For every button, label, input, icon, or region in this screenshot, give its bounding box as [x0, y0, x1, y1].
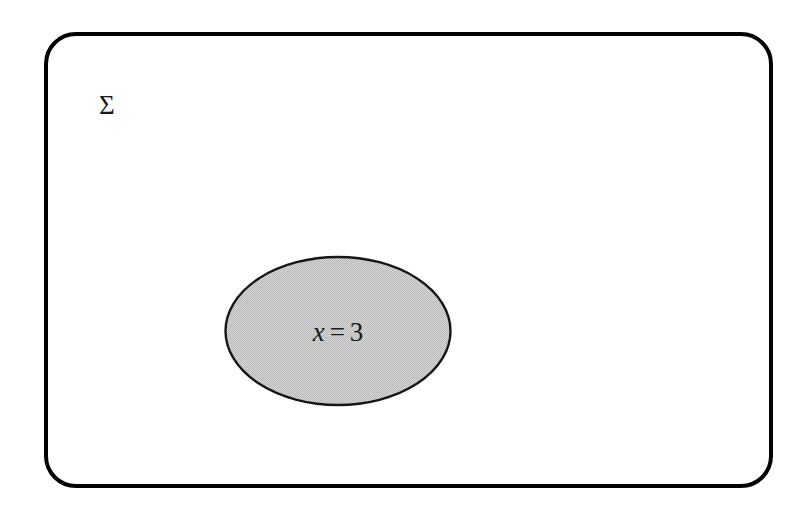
diagram-canvas: Σ x=3 [0, 0, 812, 510]
subset-ellipse-shape [224, 256, 452, 406]
subset-ellipse: x=3 [224, 256, 452, 406]
subset-ellipse-path [226, 257, 451, 405]
universal-set-label: Σ [99, 92, 115, 119]
